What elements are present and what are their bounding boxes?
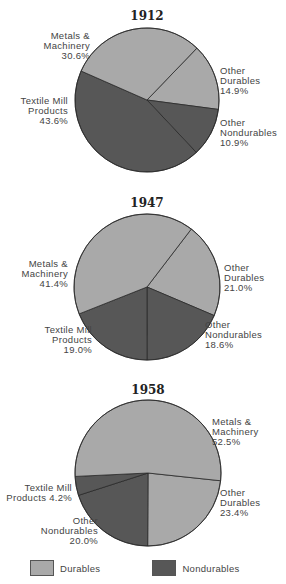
legend: Durables Nondurables: [30, 560, 286, 576]
pie-slices: [74, 214, 220, 360]
slice-label: OtherDurables14.9%: [220, 65, 260, 96]
slice-label: Textile MillProducts43.6%: [21, 95, 69, 126]
slice-label: Metals &Machinery30.6%: [43, 30, 90, 61]
slice-label: Textile MillProducts 4.2%: [6, 482, 72, 503]
slice-label: OtherNondurables18.6%: [205, 319, 262, 350]
pie-slices: [75, 28, 219, 172]
legend-item-nondurables: Nondurables: [152, 560, 239, 576]
pie-chart-1912: 1912 OtherDurables14.9%OtherNondurables1…: [21, 9, 278, 172]
legend-label: Durables: [60, 563, 100, 574]
pie-charts: 1912 OtherDurables14.9%OtherNondurables1…: [0, 0, 286, 584]
slice-label: Metals &Machinery41.4%: [21, 258, 68, 289]
legend-swatch-durables: [30, 560, 54, 576]
slice-label: OtherDurables23.4%: [220, 487, 260, 518]
legend-swatch-nondurables: [152, 560, 176, 576]
slice-label: OtherNondurables20.0%: [41, 515, 98, 546]
pie-slice-metals-machinery: [75, 400, 221, 481]
slice-label: OtherNondurables10.9%: [220, 117, 277, 148]
pie-title: 1958: [131, 383, 164, 397]
slice-label: OtherDurables21.0%: [224, 262, 264, 293]
pie-slice-other-durables: [148, 473, 221, 546]
pie-chart-1958: 1958 OtherDurables23.4%OtherNondurables2…: [6, 383, 260, 546]
pie-title: 1947: [130, 196, 163, 210]
pie-title: 1912: [130, 9, 163, 23]
pie-chart-1947: 1947 OtherDurables21.0%OtherNondurables1…: [21, 196, 264, 360]
slice-label: Metals &Machinery52.5%: [212, 416, 259, 447]
legend-item-durables: Durables: [30, 560, 100, 576]
legend-label: Nondurables: [182, 563, 239, 574]
slice-label: Textile MillProducts19.0%: [45, 324, 93, 355]
